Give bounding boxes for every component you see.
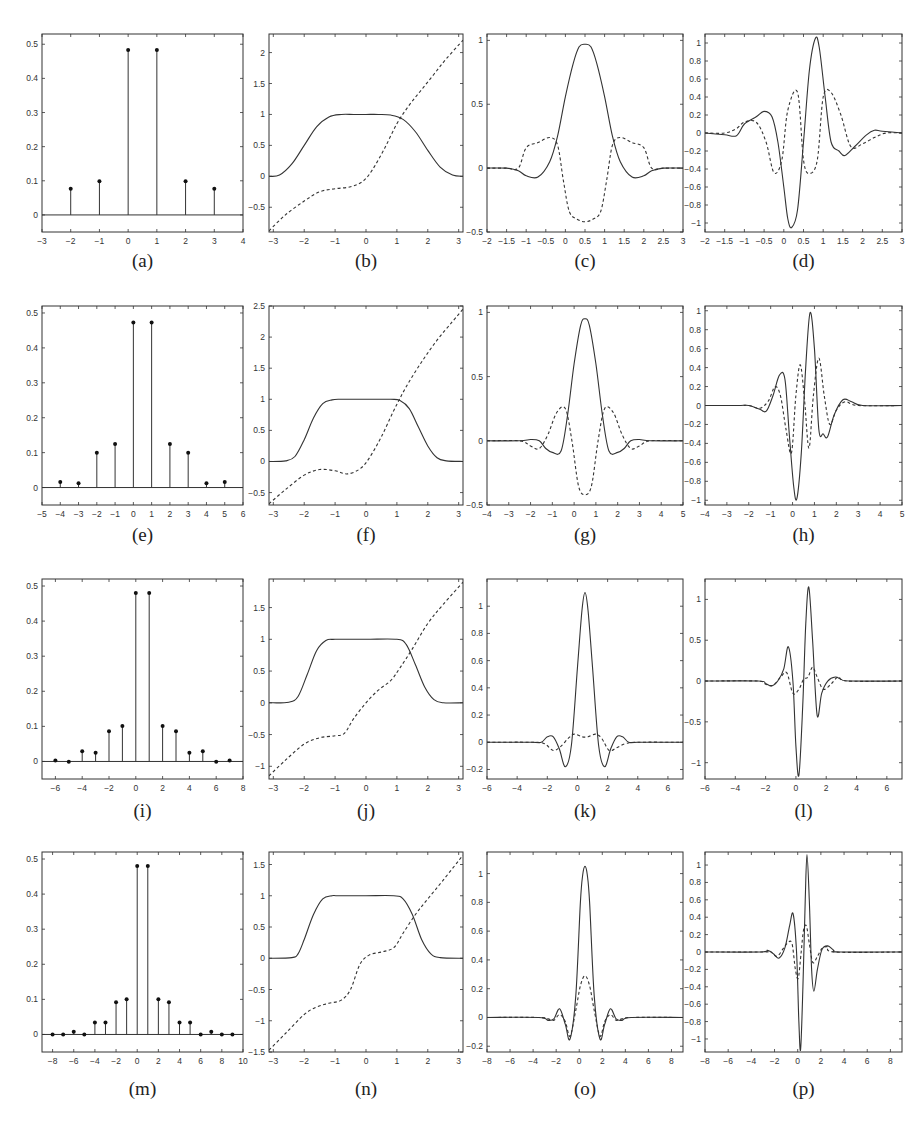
x-tick-label: 2 bbox=[819, 1056, 824, 1066]
y-tick-label: −0.8 bbox=[684, 1017, 701, 1027]
plot-p: −8−6−4−202468−1−0.8−0.6−0.4−0.200.20.40.… bbox=[684, 852, 902, 1066]
y-tick-label: −0.6 bbox=[684, 999, 701, 1009]
y-tick-label: 0.8 bbox=[689, 877, 701, 887]
x-tick-label: −6 bbox=[723, 1056, 733, 1066]
chart-p: −8−6−4−202468−1−0.8−0.6−0.4−0.200.20.40.… bbox=[0, 0, 922, 1136]
x-tick-label: 8 bbox=[888, 1056, 893, 1066]
y-tick-label: 0.4 bbox=[689, 912, 701, 922]
y-tick-label: −0.2 bbox=[684, 964, 701, 974]
x-tick-label: −8 bbox=[700, 1056, 710, 1066]
y-tick-label: 0 bbox=[696, 947, 701, 957]
y-tick-label: −1 bbox=[691, 1034, 701, 1044]
y-tick-label: −0.4 bbox=[684, 982, 701, 992]
x-tick-label: −2 bbox=[770, 1056, 780, 1066]
panel-caption-p: (p) bbox=[744, 1078, 864, 1100]
x-tick-label: 6 bbox=[865, 1056, 870, 1066]
x-tick-label: −4 bbox=[747, 1056, 757, 1066]
y-tick-label: 0.2 bbox=[689, 930, 701, 940]
y-tick-label: 1 bbox=[696, 860, 701, 870]
x-tick-label: 4 bbox=[842, 1056, 847, 1066]
x-tick-label: 0 bbox=[795, 1056, 800, 1066]
data-layer bbox=[705, 855, 902, 1051]
y-tick-label: 0.6 bbox=[689, 895, 701, 905]
figure-grid: −3−2−10123400.10.20.30.40.5(a)−3−2−10123… bbox=[0, 0, 922, 1136]
